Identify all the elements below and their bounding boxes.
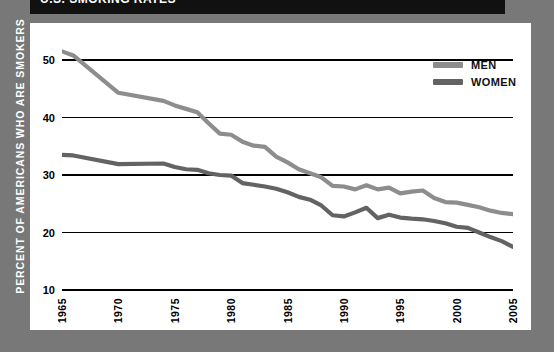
y-tick-label-20: 20 bbox=[43, 227, 55, 239]
x-tick-label-2000: 2000 bbox=[451, 298, 463, 323]
legend-item-men: MEN bbox=[433, 59, 516, 71]
x-tick-label-1965: 1965 bbox=[56, 298, 68, 323]
x-tick-label-2005: 2005 bbox=[507, 298, 519, 323]
chart-panel: 1020304050 19651970197519801985199019952… bbox=[30, 23, 531, 330]
y-axis-title: PERCENT OF AMERICANS WHO ARE SMOKERS bbox=[14, 6, 26, 306]
y-tick-label-40: 40 bbox=[43, 112, 55, 124]
legend-label-women: WOMEN bbox=[471, 76, 516, 88]
x-tick-label-1980: 1980 bbox=[225, 298, 237, 323]
y-tick-label-30: 30 bbox=[43, 169, 55, 181]
x-tick-label-1990: 1990 bbox=[338, 298, 350, 323]
title-banner: U.S. SMOKING RATES bbox=[30, 0, 505, 14]
banner-title: U.S. SMOKING RATES bbox=[40, 0, 176, 6]
chart-legend: MENWOMEN bbox=[433, 59, 516, 88]
x-tick-label-1970: 1970 bbox=[112, 298, 124, 323]
x-tick-label-1995: 1995 bbox=[394, 298, 406, 323]
legend-label-men: MEN bbox=[471, 59, 497, 71]
y-tick-label-10: 10 bbox=[43, 284, 55, 296]
y-tick-label-50: 50 bbox=[43, 54, 55, 66]
x-tick-label-1985: 1985 bbox=[282, 298, 294, 323]
legend-swatch-women bbox=[433, 79, 463, 85]
legend-swatch-men bbox=[433, 62, 463, 68]
x-tick-label-1975: 1975 bbox=[169, 298, 181, 323]
legend-item-women: WOMEN bbox=[433, 76, 516, 88]
